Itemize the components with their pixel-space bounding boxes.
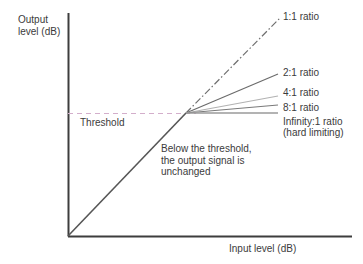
legend-label-8-1-ratio: 8:1 ratio <box>283 102 319 114</box>
threshold-label: Threshold <box>80 117 124 129</box>
below-threshold-note: Below the threshold, the output signal i… <box>161 143 252 178</box>
legend-label-1-1-ratio: 1:1 ratio <box>283 11 319 23</box>
x-axis-label: Input level (dB) <box>229 243 296 255</box>
legend-label-infinity-1-ratio: Infinity:1 ratio <box>283 116 342 128</box>
y-axis-label: Output level (dB) <box>18 14 60 37</box>
compressor-ratio-diagram: Output level (dB) Input level (dB) Thres… <box>0 0 363 264</box>
ratio-line-8-1 <box>186 105 278 113</box>
ratio-line-2-1 <box>186 74 278 113</box>
legend-label-4-1-ratio: 4:1 ratio <box>283 87 319 99</box>
legend-label-hard-limiting: (hard limiting) <box>283 127 344 139</box>
legend-label-2-1-ratio: 2:1 ratio <box>283 67 319 79</box>
